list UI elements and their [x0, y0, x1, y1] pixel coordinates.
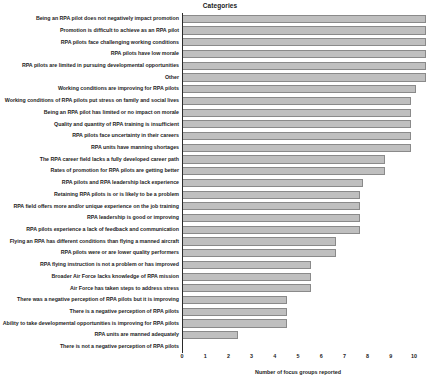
bar [182, 179, 363, 187]
bar [182, 284, 311, 292]
category-label: RPA pilots have low morale [0, 51, 182, 57]
bar-track [182, 118, 426, 130]
category-label: RPA pilots were or are lower quality per… [0, 250, 182, 256]
bar-row: Quality and quantity of RPA training is … [0, 118, 426, 130]
bar-track [182, 318, 426, 330]
bar-row: Retaining RPA pilots is or is likely to … [0, 189, 426, 201]
bar-track [182, 236, 426, 248]
bar-row: There was a negative perception of RPA p… [0, 294, 426, 306]
bar [182, 308, 287, 316]
category-label: RPA pilots face challenging working cond… [0, 40, 182, 46]
bar-row: There is not a negative perception of RP… [0, 341, 426, 353]
category-label: There is a negative perception of RPA pi… [0, 309, 182, 315]
bar [182, 319, 287, 327]
bar-row: Air Force has taken steps to address str… [0, 283, 426, 295]
x-tick-label: 3 [250, 353, 253, 359]
bar [182, 273, 311, 281]
bar [182, 120, 411, 128]
category-label: RPA field offers more and/or unique expe… [0, 204, 182, 210]
bar-track [182, 13, 426, 25]
category-label: RPA units are manned adequately [0, 332, 182, 338]
bar [182, 15, 426, 23]
category-label: RPA flying instruction is not a problem … [0, 262, 182, 268]
x-tick-label: 10 [411, 353, 417, 359]
category-label: Quality and quantity of RPA training is … [0, 122, 182, 128]
category-label: Ability to take developmental opportunit… [0, 321, 182, 327]
plot-area: Being an RPA pilot does not negatively i… [0, 13, 426, 353]
bar [182, 226, 360, 234]
bar [182, 85, 416, 93]
bar-row: RPA units have manning shortages [0, 142, 426, 154]
bar-track [182, 259, 426, 271]
bar-row: Working conditions are improving for RPA… [0, 83, 426, 95]
category-label: Other [0, 75, 182, 81]
bar-track [182, 95, 426, 107]
page-title: Categories [0, 2, 426, 9]
bar [182, 331, 238, 339]
bar-row: RPA leadership is good or improving [0, 212, 426, 224]
bar-track [182, 189, 426, 201]
bar-row: RPA pilots experience a lack of feedback… [0, 224, 426, 236]
bar-row: Flying an RPA has different conditions t… [0, 236, 426, 248]
bar [182, 155, 385, 163]
horizontal-bar-chart: Categories Being an RPA pilot does not n… [0, 0, 426, 382]
category-label: RPA pilots are limited in pursuing devel… [0, 63, 182, 69]
bar-track [182, 130, 426, 142]
y-axis-line [182, 13, 183, 353]
bar [182, 38, 426, 46]
bar [182, 97, 411, 105]
bar-track [182, 25, 426, 37]
category-label: The RPA career field lacks a fully devel… [0, 157, 182, 163]
bar [182, 214, 360, 222]
bar-row: RPA flying instruction is not a problem … [0, 259, 426, 271]
bar-row: RPA pilots face uncertainty in their car… [0, 130, 426, 142]
bar-row: RPA pilots face challenging working cond… [0, 36, 426, 48]
category-label: Rates of promotion for RPA pilots are ge… [0, 168, 182, 174]
bar-row: Being an RPA pilot does not negatively i… [0, 13, 426, 25]
bar-track [182, 271, 426, 283]
x-tick-label: 5 [297, 353, 300, 359]
bar [182, 109, 411, 117]
category-label: Being an RPA pilot has limited or no imp… [0, 110, 182, 116]
bar-track [182, 154, 426, 166]
bar-row: RPA pilots have low morale [0, 48, 426, 60]
bar-row: RPA field offers more and/or unique expe… [0, 201, 426, 213]
bar-track [182, 329, 426, 341]
bar-row: Working conditions of RPA pilots put str… [0, 95, 426, 107]
category-label: RPA pilots and RPA leadership lack exper… [0, 180, 182, 186]
bar-track [182, 83, 426, 95]
bar-track [182, 60, 426, 72]
bar-row: RPA units are manned adequately [0, 329, 426, 341]
bar-row: Rates of promotion for RPA pilots are ge… [0, 165, 426, 177]
bar [182, 26, 426, 34]
bar-row: Promotion is difficult to achieve as an … [0, 25, 426, 37]
bar-track [182, 142, 426, 154]
bar-track [182, 283, 426, 295]
category-label: There was a negative perception of RPA p… [0, 297, 182, 303]
category-label: Being an RPA pilot does not negatively i… [0, 16, 182, 22]
bar-track [182, 224, 426, 236]
category-label: Promotion is difficult to achieve as an … [0, 28, 182, 34]
x-tick-label: 4 [273, 353, 276, 359]
bar-track [182, 341, 426, 353]
x-tick-label: 6 [320, 353, 323, 359]
bar-track [182, 306, 426, 318]
x-tick-label: 2 [227, 353, 230, 359]
bar-row: RPA pilots and RPA leadership lack exper… [0, 177, 426, 189]
x-tick-label: 0 [181, 353, 184, 359]
bar-track [182, 107, 426, 119]
x-tick-label: 1 [204, 353, 207, 359]
x-tick-label: 8 [366, 353, 369, 359]
category-label: RPA units have manning shortages [0, 145, 182, 151]
category-label: Working conditions of RPA pilots put str… [0, 98, 182, 104]
x-tick-label: 7 [343, 353, 346, 359]
bar-row: The RPA career field lacks a fully devel… [0, 154, 426, 166]
bar [182, 50, 426, 58]
bar [182, 73, 426, 81]
bar-row: Ability to take developmental opportunit… [0, 318, 426, 330]
bar-track [182, 177, 426, 189]
category-label: RPA pilots face uncertainty in their car… [0, 133, 182, 139]
category-label: Air Force has taken steps to address str… [0, 286, 182, 292]
category-label: RPA pilots experience a lack of feedback… [0, 227, 182, 233]
category-label: There is not a negative perception of RP… [0, 344, 182, 350]
